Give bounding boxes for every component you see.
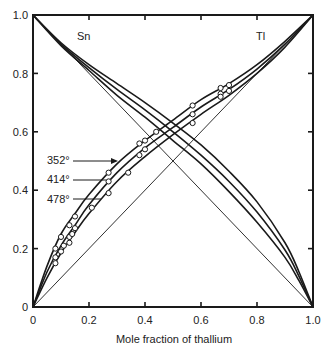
x-tick-label: 0.4 [137, 314, 152, 326]
data-point-marker [126, 170, 131, 175]
data-point-marker [190, 103, 195, 108]
data-point-marker [72, 226, 77, 231]
x-tick-label: 0.8 [249, 314, 264, 326]
y-tick-label: 0.4 [13, 184, 28, 196]
x-tick-label: 0.6 [193, 314, 208, 326]
activity-chart: 0 0.2 0.4 0.6 0.8 1.0 0 0.2 0.4 0.6 0.8 … [0, 0, 328, 354]
data-point-marker [106, 179, 111, 184]
data-point-marker [226, 88, 231, 93]
annotation-414: 414° [47, 173, 70, 185]
y-tick-label: 0.2 [13, 243, 28, 255]
data-point-marker [53, 261, 58, 266]
data-point-marker [70, 231, 75, 236]
y-tick-label: 0 [22, 301, 28, 313]
y-tick-label: 0.6 [13, 126, 28, 138]
y-tick-label: 1.0 [13, 9, 28, 21]
data-point-marker [58, 234, 63, 239]
x-tick-label: 0.2 [81, 314, 96, 326]
annotation-352: 352° [47, 154, 70, 166]
data-point-marker [61, 243, 66, 248]
x-tick-label: 0 [30, 314, 36, 326]
data-point-marker [137, 153, 142, 158]
data-point-marker [142, 138, 147, 143]
data-point-marker [226, 82, 231, 87]
data-point-marker [142, 147, 147, 152]
data-point-marker [53, 246, 58, 251]
data-point-marker [190, 112, 195, 117]
data-point-marker [218, 94, 223, 99]
data-point-marker [218, 85, 223, 90]
x-axis-label: Mole fraction of thallium [116, 333, 232, 345]
data-point-marker [53, 255, 58, 260]
data-point-marker [67, 223, 72, 228]
data-point-marker [89, 205, 94, 210]
tl-label: Tl [256, 30, 265, 42]
data-point-marker [106, 191, 111, 196]
data-point-marker [106, 170, 111, 175]
data-point-marker [137, 141, 142, 146]
data-point-marker [72, 214, 77, 219]
x-tick-label: 1.0 [305, 314, 320, 326]
data-point-marker [58, 249, 63, 254]
data-point-marker [67, 240, 72, 245]
sn-label: Sn [77, 30, 90, 42]
data-point-marker [154, 129, 159, 134]
y-tick-label: 0.8 [13, 68, 28, 80]
annotation-478: 478° [47, 193, 70, 205]
data-point-marker [190, 120, 195, 125]
data-points [53, 82, 232, 265]
